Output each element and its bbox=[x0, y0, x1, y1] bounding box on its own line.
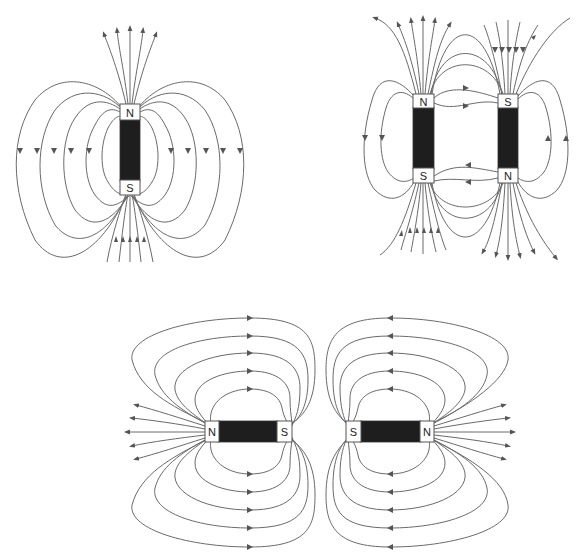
magnet-body bbox=[360, 421, 421, 442]
field-lines-top-open bbox=[104, 28, 156, 104]
field-lines-right-bottom-open bbox=[483, 183, 556, 258]
field-lines-left-magnet-upper bbox=[132, 315, 315, 427]
panel-two-antiparallel-magnets: N S S N bbox=[362, 18, 570, 258]
field-lines-right-magnet-upper bbox=[326, 315, 508, 427]
south-pole-label: S bbox=[281, 426, 288, 438]
panel-two-repelling-horizontal-magnets: N S S N bbox=[127, 315, 513, 550]
field-lines-between-magnets bbox=[434, 85, 498, 185]
field-lines-bottom-open bbox=[107, 194, 153, 262]
panel-single-bar-magnet: N S bbox=[16, 28, 244, 262]
south-pole-label: S bbox=[350, 426, 357, 438]
field-lines-left-top-open bbox=[375, 18, 450, 94]
north-pole-label: N bbox=[208, 426, 216, 438]
south-pole-label: S bbox=[126, 182, 133, 194]
magnet-body bbox=[498, 107, 518, 169]
field-lines-left-magnet-open bbox=[127, 405, 205, 459]
field-lines-right-magnet-outer bbox=[518, 81, 569, 199]
field-arrows-right bbox=[168, 148, 243, 154]
field-lines-left-magnet-outer bbox=[362, 81, 414, 199]
magnet-left: N S bbox=[413, 94, 434, 183]
field-lines-right-top-open bbox=[484, 18, 570, 94]
field-arrows-left bbox=[17, 148, 92, 154]
magnet-body bbox=[413, 107, 434, 169]
field-lines-left-magnet-lower bbox=[132, 436, 315, 550]
field-lines-right bbox=[130, 82, 244, 258]
magnet-body bbox=[120, 119, 140, 181]
field-lines-right-magnet-lower bbox=[326, 436, 508, 550]
magnet-vertical: N S bbox=[120, 104, 140, 195]
field-lines-right-magnet-open bbox=[434, 405, 513, 459]
north-pole-label: N bbox=[423, 426, 431, 438]
south-pole-label: S bbox=[420, 170, 427, 182]
north-pole-label: N bbox=[126, 107, 134, 119]
north-pole-label: N bbox=[504, 170, 512, 182]
magnet-horizontal-right: S N bbox=[346, 421, 434, 442]
magnet-right: S N bbox=[498, 94, 518, 183]
magnetic-field-diagram: N S bbox=[0, 0, 579, 558]
magnet-horizontal-left: N S bbox=[205, 421, 292, 442]
field-lines-left bbox=[16, 82, 130, 258]
north-pole-label: N bbox=[420, 96, 428, 108]
magnet-body bbox=[218, 421, 278, 442]
south-pole-label: S bbox=[504, 96, 511, 108]
